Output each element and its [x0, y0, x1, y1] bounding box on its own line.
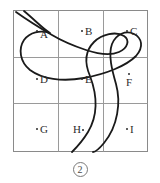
cell-dot-b: [81, 30, 83, 32]
cell-dot-i: [126, 128, 128, 130]
cell-dot-h: [82, 129, 84, 131]
cell-dot-e: [81, 78, 83, 80]
figure-caption: 2: [0, 159, 160, 177]
figure-drawing: [0, 0, 160, 183]
cell-dot-d: [36, 78, 38, 80]
figure-number-badge: 2: [73, 162, 88, 177]
cell-dot-c: [126, 30, 128, 32]
figure-container: A B C D E F G H I 2: [0, 0, 160, 183]
cell-dot-g: [36, 128, 38, 130]
cell-dot-a: [36, 30, 38, 32]
cell-dot-f: [128, 73, 130, 75]
